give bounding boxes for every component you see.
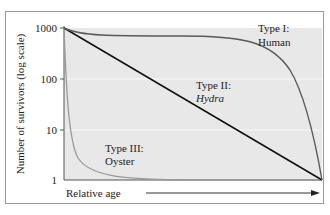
tick-label-10: 10 <box>46 124 58 136</box>
tick-label-1000: 1000 <box>35 22 58 34</box>
survivorship-chart: 1000 100 10 1 Number of survivors (log s… <box>0 0 330 215</box>
type2-label: Type II: <box>196 79 231 91</box>
tick-label-100: 100 <box>41 73 58 85</box>
x-axis-label: Relative age <box>66 187 121 199</box>
type2-sublabel: Hydra <box>195 92 225 104</box>
type1-label: Type I: <box>258 22 289 34</box>
arrow-right-icon <box>311 190 320 196</box>
type3-sublabel: Oyster <box>105 155 135 167</box>
type3-label: Type III: <box>105 142 144 154</box>
y-axis-label: Number of survivors (log scale) <box>14 33 27 174</box>
tick-label-1: 1 <box>52 174 58 186</box>
type1-sublabel: Human <box>258 36 291 48</box>
